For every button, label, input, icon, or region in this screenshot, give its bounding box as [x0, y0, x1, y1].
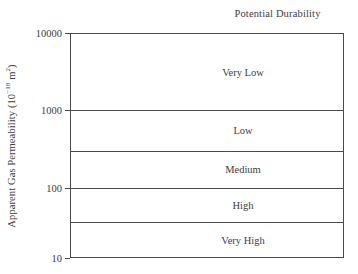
y-axis-title-exponent: −18: [4, 83, 12, 94]
y-tick-label-100: 100: [46, 183, 62, 194]
band-divider-30: [71, 222, 343, 223]
band-label-medium: Medium: [71, 164, 343, 175]
y-axis-title-close: ): [6, 64, 17, 68]
band-label-high: High: [71, 200, 343, 211]
band-divider-100: [71, 188, 343, 189]
band-label-medium-text: Medium: [225, 164, 261, 175]
band-label-very-high: Very High: [71, 235, 343, 246]
band-divider-300: [71, 151, 343, 152]
y-axis-title-container: Apparent Gas Permeability (10−18 m2): [0, 33, 22, 259]
band-label-high-text: High: [233, 200, 254, 211]
chart-figure: Potential Durability Apparent Gas Permea…: [0, 0, 358, 274]
band-label-very-low-text: Very Low: [222, 67, 264, 78]
y-tick-label-10000: 10000: [36, 28, 62, 39]
band-label-low-text: Low: [233, 125, 252, 136]
y-axis-title-main: Apparent Gas Permeability (10: [6, 94, 17, 228]
y-axis-title-unit-exponent: 2: [4, 68, 12, 72]
y-tick-mark-10: [65, 258, 70, 259]
chart-title: Potential Durability: [205, 8, 350, 19]
y-tick-label-1000: 1000: [41, 105, 62, 116]
y-tick-label-10: 10: [52, 253, 63, 264]
band-label-very-low: Very Low: [71, 67, 343, 78]
band-label-very-high-text: Very High: [221, 235, 264, 246]
plot-area: Very Low Low Medium High Very High: [70, 33, 344, 258]
y-axis-title-unit: m: [6, 72, 17, 83]
band-divider-1000: [71, 110, 343, 111]
band-label-low: Low: [71, 125, 343, 136]
y-axis-title: Apparent Gas Permeability (10−18 m2): [6, 64, 17, 227]
